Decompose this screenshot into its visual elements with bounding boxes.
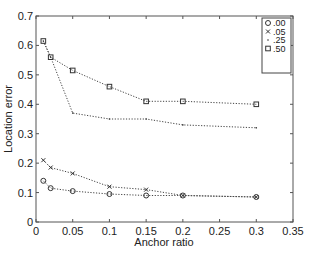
point-marker	[72, 112, 74, 114]
point-marker	[267, 39, 269, 41]
square-marker	[70, 68, 75, 73]
series-line	[43, 41, 256, 128]
legend-label: .50	[273, 44, 286, 54]
series-layer	[41, 39, 259, 200]
axes: 00.050.10.150.20.250.30.3500.10.20.30.40…	[18, 10, 304, 237]
x-tick-label: 0.25	[209, 225, 230, 237]
x-tick-label: 0	[33, 225, 39, 237]
y-tick-label: 0.7	[18, 10, 33, 22]
x-tick-label: 0.1	[102, 225, 117, 237]
y-axis-label: Location error	[2, 85, 14, 153]
x-tick-label: 0.05	[62, 225, 83, 237]
square-marker	[144, 99, 149, 104]
line-chart: 00.050.10.150.20.250.30.3500.10.20.30.40…	[0, 0, 309, 254]
y-tick-label: 0.1	[18, 187, 33, 199]
series-p25	[43, 40, 258, 128]
y-tick-label: 0.2	[18, 157, 33, 169]
x-tick-label: 0.35	[282, 225, 303, 237]
point-marker	[182, 124, 184, 126]
y-tick-label: 0.6	[18, 39, 33, 51]
series-p00	[41, 178, 259, 199]
y-tick-label: 0.4	[18, 98, 33, 110]
y-tick-label: 0.5	[18, 69, 33, 81]
square-marker	[107, 84, 112, 89]
series-line	[43, 181, 256, 197]
point-marker	[109, 118, 111, 120]
y-tick-label: 0.3	[18, 128, 33, 140]
point-marker	[255, 127, 257, 129]
y-tick-label: 0	[27, 216, 33, 228]
x-axis-label: Anchor ratio	[134, 236, 193, 248]
x-tick-label: 0.3	[249, 225, 264, 237]
legend: .00.05.25.50	[262, 18, 291, 73]
point-marker	[145, 118, 147, 120]
series-p50	[41, 39, 259, 107]
